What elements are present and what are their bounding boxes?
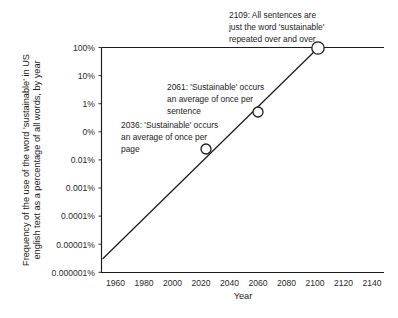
y-tick-label: 0.001%	[66, 183, 96, 193]
annotation-2036-line-3: page	[121, 144, 140, 154]
y-tick-label: 0.000001%	[52, 268, 96, 278]
x-tick-label: 2000	[163, 278, 182, 288]
y-axis-title-line-2: english text as a percentage of all word…	[32, 60, 42, 259]
chart-container: 100% 10% 1% 0% 0.01% 0.001% 0.0001% 0.00…	[0, 0, 398, 318]
y-tick-labels: 100% 10% 1% 0% 0.01% 0.001% 0.0001% 0.00…	[52, 43, 96, 278]
x-tick-labels: 1960 1980 2000 2020 2040 2060 2080 2100 …	[106, 278, 382, 288]
x-tick-label: 2140	[362, 278, 381, 288]
y-tick-label: 100%	[73, 43, 95, 53]
x-tick-label: 2120	[334, 278, 353, 288]
y-axis-title-line-1: Frequency of the use of the word 'sustai…	[21, 54, 31, 266]
sustainable-frequency-line-chart: 100% 10% 1% 0% 0.01% 0.001% 0.0001% 0.00…	[0, 0, 398, 318]
x-tick-label: 1980	[134, 278, 153, 288]
x-tick-label: 1960	[106, 278, 125, 288]
x-axis-title: Year	[234, 291, 253, 301]
annotation-2109-line-1: 2109: All sentences are	[229, 10, 316, 20]
annotation-2109: 2109: All sentences are just the word 's…	[228, 10, 325, 44]
x-tick-label: 2080	[277, 278, 296, 288]
y-tick-label: 0.0001%	[61, 211, 95, 221]
annotation-2061-line-2: an average of once per	[167, 94, 253, 104]
x-tick-label: 2020	[191, 278, 210, 288]
annotation-2061-line-1: 2061: 'Sustainable' occurs	[167, 82, 264, 92]
y-tick-label: 10%	[78, 71, 96, 81]
x-tick-label: 2100	[305, 278, 324, 288]
y-axis-title: Frequency of the use of the word 'sustai…	[21, 54, 42, 266]
annotation-2036-line-1: 2036: 'Sustainable' occurs	[121, 120, 218, 130]
y-tick-label: 0.00001%	[56, 240, 95, 250]
data-point-2036[interactable]	[201, 144, 211, 154]
annotation-2061: 2061: 'Sustainable' occurs an average of…	[167, 82, 264, 116]
y-tick-label: 0.01%	[71, 155, 96, 165]
annotation-2036-line-2: an average of once per	[121, 132, 207, 142]
x-tick-label: 2060	[248, 278, 267, 288]
y-tick-label: 0%	[83, 127, 96, 137]
annotation-2109-line-3: repeated over and over	[229, 34, 316, 44]
annotation-2109-line-2: just the word 'sustainable'	[228, 22, 325, 32]
y-tick-label: 1%	[83, 99, 96, 109]
annotation-2061-line-3: sentence	[167, 106, 201, 116]
data-point-2061[interactable]	[253, 107, 263, 117]
x-tick-label: 2040	[220, 278, 239, 288]
